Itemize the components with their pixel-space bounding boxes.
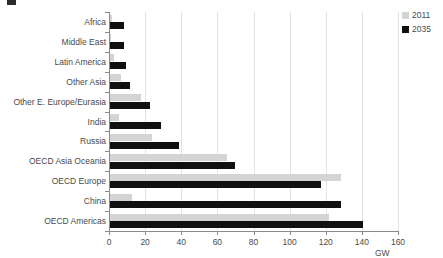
y-axis-tick [105, 52, 109, 53]
y-axis-tick [105, 92, 109, 93]
x-axis-title: GW [375, 248, 390, 258]
bar-2011[interactable] [110, 74, 121, 81]
bar-2011[interactable] [110, 94, 141, 101]
x-axis-tick [217, 231, 218, 235]
category-label: OECD Americas [44, 216, 106, 226]
gridline [398, 12, 399, 231]
bar-2011[interactable] [110, 194, 132, 201]
category-label: India [88, 117, 106, 127]
bar-2035[interactable] [110, 162, 235, 169]
x-axis-tick-label: 80 [249, 237, 258, 247]
x-axis-tick [181, 231, 182, 235]
gridline [326, 12, 327, 231]
bar-2035[interactable] [110, 122, 161, 129]
x-axis-tick [109, 231, 110, 235]
x-axis-tick-label: 100 [283, 237, 297, 247]
gridline [181, 12, 182, 231]
bar-2035[interactable] [110, 102, 150, 109]
bar-2011[interactable] [110, 214, 329, 221]
x-axis-tick-label: 120 [319, 237, 333, 247]
y-axis-tick [105, 72, 109, 73]
y-axis-tick [105, 191, 109, 192]
y-axis-tick [105, 171, 109, 172]
bar-2011[interactable] [110, 15, 112, 22]
x-axis-tick-label: 0 [107, 237, 112, 247]
bar-2011[interactable] [110, 154, 227, 161]
y-axis-tick [105, 151, 109, 152]
legend-item-2035[interactable]: 2035 [402, 22, 443, 36]
bar-2035[interactable] [110, 82, 130, 89]
category-label: OECD Europe [52, 176, 106, 186]
x-axis-tick-label: 140 [355, 237, 369, 247]
x-axis-tick [398, 231, 399, 235]
x-axis-tick [290, 231, 291, 235]
x-axis-tick [362, 231, 363, 235]
chart-legend: 2011 2035 [402, 8, 443, 36]
category-label: Other E. Europe/Eurasia [13, 97, 106, 107]
x-axis-tick-label: 160 [391, 237, 405, 247]
bar-2011[interactable] [110, 174, 341, 181]
x-axis-tick-label: 60 [213, 237, 222, 247]
x-axis-tick [254, 231, 255, 235]
bar-2035[interactable] [110, 42, 124, 49]
category-label: OECD Asia Oceania [29, 156, 106, 166]
y-axis-tick [105, 112, 109, 113]
y-axis-tick [105, 211, 109, 212]
legend-item-2011[interactable]: 2011 [402, 8, 443, 22]
y-axis-tick [105, 12, 109, 13]
bar-2035[interactable] [110, 22, 124, 29]
x-axis-tick [326, 231, 327, 235]
category-label: Middle East [62, 37, 106, 47]
y-axis-tick [105, 32, 109, 33]
cropped-title-artifact [7, 0, 16, 5]
category-label: Other Asia [66, 77, 106, 87]
y-axis-tick [105, 131, 109, 132]
category-label: Russia [80, 136, 106, 146]
legend-label-2011: 2011 [412, 10, 430, 20]
x-axis-tick-label: 20 [140, 237, 149, 247]
bar-2035[interactable] [110, 201, 341, 208]
gridline [217, 12, 218, 231]
bar-2011[interactable] [110, 34, 111, 41]
gridline [362, 12, 363, 231]
gridline [254, 12, 255, 231]
category-label: Latin America [55, 57, 107, 67]
category-label: China [84, 196, 106, 206]
bar-2035[interactable] [110, 181, 321, 188]
bar-2035[interactable] [110, 221, 363, 228]
bar-2035[interactable] [110, 62, 126, 69]
x-axis-tick-label: 40 [177, 237, 186, 247]
legend-swatch-2011 [402, 12, 409, 19]
bar-2011[interactable] [110, 134, 152, 141]
legend-swatch-2035 [402, 26, 409, 33]
bar-2011[interactable] [110, 54, 114, 61]
category-label: Africa [84, 17, 106, 27]
bar-2035[interactable] [110, 142, 179, 149]
x-axis-tick [145, 231, 146, 235]
bar-chart: AfricaMiddle EastLatin AmericaOther Asia… [0, 0, 443, 258]
gridline [290, 12, 291, 231]
bar-2011[interactable] [110, 114, 119, 121]
legend-label-2035: 2035 [412, 24, 431, 34]
